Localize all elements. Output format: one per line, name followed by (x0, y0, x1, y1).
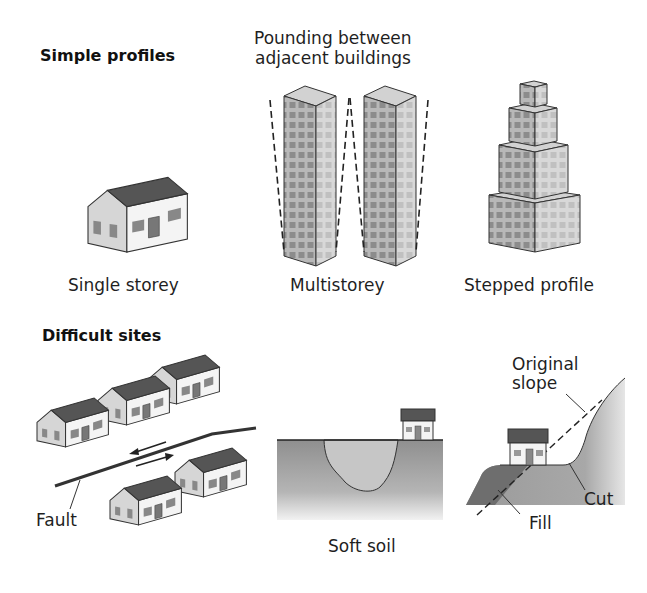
multistorey-towers (270, 86, 428, 266)
label-pounding-line2: adjacent buildings (255, 48, 411, 68)
label-single-storey: Single storey (68, 275, 179, 295)
stepped-profile-building (489, 81, 580, 252)
label-multistorey: Multistorey (290, 275, 385, 295)
label-original-line1: Original (512, 354, 579, 374)
label-fill: Fill (529, 513, 552, 533)
label-pounding-line1: Pounding between (254, 28, 412, 48)
label-stepped-profile: Stepped profile (464, 275, 594, 295)
label-soft-soil: Soft soil (328, 536, 396, 556)
soft-soil-site (277, 409, 443, 520)
single-storey-house (88, 177, 187, 252)
label-original-line2: slope (512, 373, 557, 393)
diagram-canvas (0, 0, 647, 593)
fault-site (37, 355, 256, 525)
section-title-simple-profiles: Simple profiles (40, 46, 175, 65)
label-fault: Fault (36, 510, 77, 530)
label-cut: Cut (584, 489, 613, 509)
section-title-difficult-sites: Difficult sites (42, 326, 161, 345)
